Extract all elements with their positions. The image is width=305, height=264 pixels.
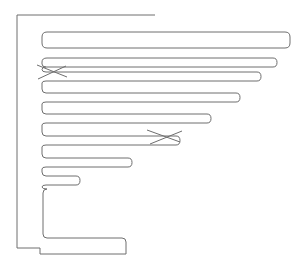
comb-finger-1 — [42, 32, 290, 48]
x-marker-2-icon — [147, 130, 182, 144]
comb-fingers-serpentine — [42, 58, 277, 189]
diagram-canvas — [0, 0, 305, 264]
finger-2-left-cap — [42, 58, 47, 67]
outer-frame — [17, 15, 155, 254]
comb-outline-drawing — [0, 0, 305, 264]
